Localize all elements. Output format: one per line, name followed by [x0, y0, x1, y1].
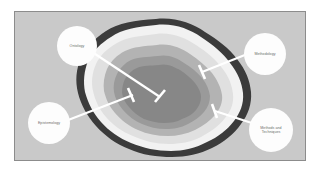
callout-ontology-label: Ontology — [70, 44, 85, 48]
callout-epistemology-label: Epistemology — [38, 121, 60, 125]
callout-methods-and-techniques[interactable]: Methods and Techniques — [249, 108, 293, 152]
callout-methods-and-techniques-label: Methods and Techniques — [260, 126, 281, 135]
callout-methodology[interactable]: Methodology — [244, 33, 286, 75]
research-onion-figure: Ontology Methodology Epistemology Method… — [0, 0, 320, 172]
callout-epistemology[interactable]: Epistemology — [28, 102, 70, 144]
callout-methodology-label: Methodology — [254, 52, 275, 56]
callout-ontology[interactable]: Ontology — [57, 26, 97, 66]
diagram-canvas: Ontology Methodology Epistemology Method… — [14, 11, 306, 161]
